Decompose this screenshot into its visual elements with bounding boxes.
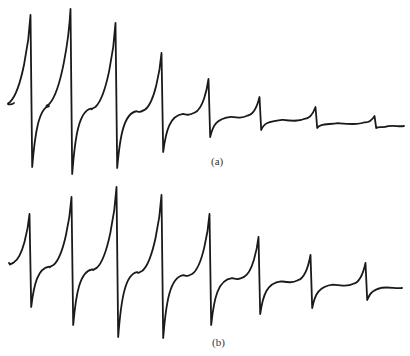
panel-label-a: (a) bbox=[211, 155, 223, 167]
panel-label-b: (b) bbox=[212, 336, 225, 348]
trace-b bbox=[9, 187, 402, 338]
spectra-figure bbox=[0, 0, 410, 356]
trace-a bbox=[8, 9, 404, 174]
